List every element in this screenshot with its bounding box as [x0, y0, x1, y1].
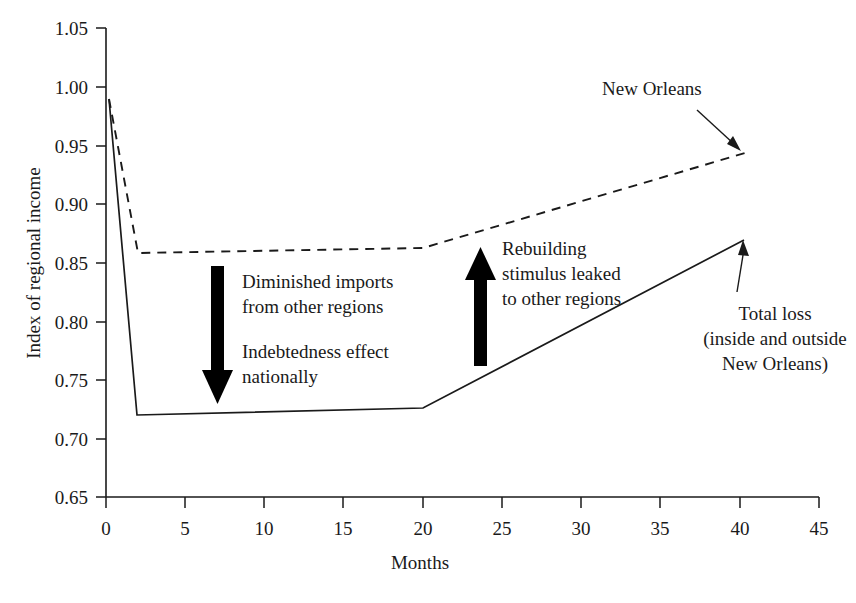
x-tick-label-5: 25 [493, 518, 512, 539]
y-tick-label-3: 0.90 [55, 194, 88, 215]
annotation-indebtedness-line1: Indebtedness effect [242, 341, 390, 362]
y-tick-label-2: 0.95 [55, 136, 88, 157]
y-tick-label-0: 1.05 [55, 18, 88, 39]
series-total-loss [109, 99, 744, 415]
y-tick-labels: 1.05 1.00 0.95 0.90 0.85 0.80 0.75 0.70 … [55, 18, 88, 508]
x-tick-labels: 0 5 10 15 20 25 30 35 40 45 [101, 518, 828, 539]
x-tick-label-7: 35 [651, 518, 670, 539]
y-tick-label-8: 0.65 [55, 487, 88, 508]
y-tick-label-1: 1.00 [55, 77, 88, 98]
x-tick-label-9: 45 [810, 518, 829, 539]
annotation-indebtedness-line2: nationally [242, 366, 318, 387]
y-axis-title: Index of regional income [23, 167, 44, 359]
x-tick-label-8: 40 [731, 518, 750, 539]
annotation-diminished-line2: from other regions [242, 296, 383, 317]
y-tick-label-7: 0.70 [55, 429, 88, 450]
x-tick-label-2: 10 [255, 518, 274, 539]
x-axis-title: Months [391, 552, 449, 573]
annotation-total-loss-line1: Total loss [738, 303, 811, 324]
annotation-new-orleans: New Orleans [602, 78, 702, 99]
annotation-total-loss-line3: New Orleans) [722, 353, 828, 375]
x-tick-label-0: 0 [101, 518, 111, 539]
bold-arrow-down-icon [202, 266, 233, 404]
y-tick-label-5: 0.80 [55, 312, 88, 333]
axes-group [96, 28, 819, 508]
y-tick-label-6: 0.75 [55, 370, 88, 391]
series-new-orleans [109, 99, 745, 253]
line-chart-svg: 1.05 1.00 0.95 0.90 0.85 0.80 0.75 0.70 … [0, 0, 856, 603]
x-tick-label-4: 20 [414, 518, 433, 539]
x-tick-label-1: 5 [180, 518, 190, 539]
bold-arrow-up-icon [465, 247, 496, 366]
y-tick-label-4: 0.85 [55, 253, 88, 274]
x-tick-label-3: 15 [334, 518, 353, 539]
annotation-rebuilding-line1: Rebuilding [502, 238, 587, 259]
total-loss-pointer-icon [737, 240, 749, 292]
new-orleans-pointer-icon [697, 110, 741, 151]
annotation-total-loss-line2: (inside and outside [703, 328, 847, 350]
chart-figure: 1.05 1.00 0.95 0.90 0.85 0.80 0.75 0.70 … [0, 0, 856, 603]
x-tick-label-6: 30 [572, 518, 591, 539]
annotation-rebuilding-line3: to other regions [502, 288, 621, 309]
annotation-diminished-line1: Diminished imports [242, 271, 393, 292]
annotation-rebuilding-line2: stimulus leaked [502, 263, 621, 284]
